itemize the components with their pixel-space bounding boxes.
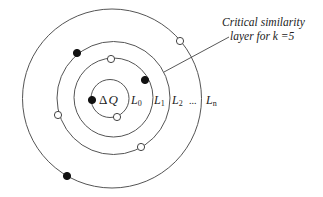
filled-point-l0-0 [88, 96, 95, 103]
query-symbol: Q [108, 92, 118, 107]
open-point-l2-6 [137, 143, 144, 150]
layer-label-l0: L0 [130, 93, 142, 108]
layer-label-l2: L2 [171, 93, 183, 108]
open-point-l0-1 [113, 113, 120, 120]
layer-label-l1: L1 [153, 93, 165, 108]
open-point-l1-2 [107, 55, 114, 62]
annotation-leader-line [164, 37, 229, 72]
filled-point-ln-8 [63, 172, 70, 179]
layer-ellipsis: ... [189, 95, 197, 106]
open-point-ln-7 [176, 37, 183, 44]
layer-label-ln: Ln [205, 93, 217, 108]
annotation-line-1: Critical similarity [222, 16, 306, 29]
delta-symbol: Δ [99, 92, 107, 107]
filled-point-l2-4 [73, 49, 80, 56]
filled-point-l1-3 [141, 76, 148, 83]
open-point-l2-5 [54, 111, 61, 118]
annotation-line-2: layer for k =5 [230, 30, 295, 43]
similarity-layers-diagram: ΔQ L0 L1 L2 ... Ln Critical similarity l… [0, 0, 323, 197]
center-label: ΔQ [99, 92, 118, 107]
